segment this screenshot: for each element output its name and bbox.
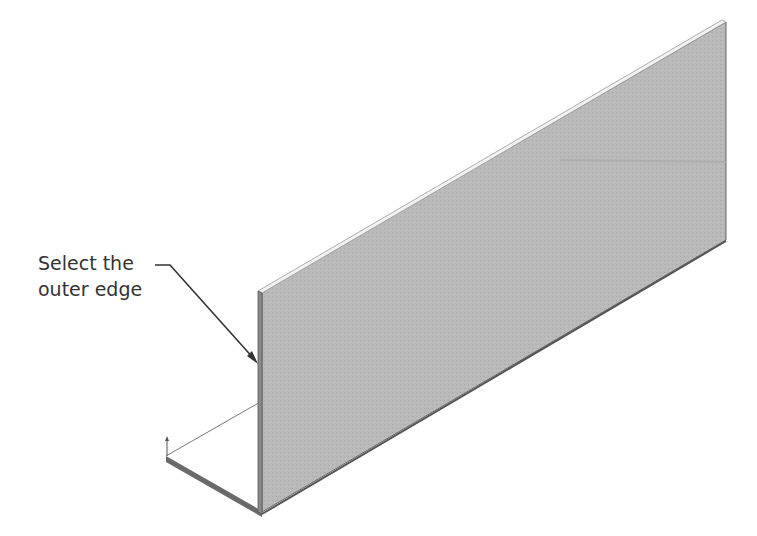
outer-edge[interactable] (258, 291, 262, 514)
origin-arrow-icon (165, 436, 169, 441)
callout-line-1: Select the (38, 250, 142, 276)
flange-face (166, 402, 262, 512)
callout-label: Select the outer edge (38, 250, 142, 302)
leader-line (155, 265, 255, 360)
callout-line-2: outer edge (38, 276, 142, 302)
panel-face (262, 22, 726, 512)
